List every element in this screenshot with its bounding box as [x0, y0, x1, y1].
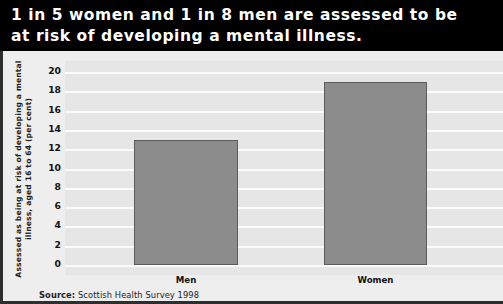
bar-men — [134, 140, 238, 265]
source-prefix: Source: — [39, 290, 75, 300]
y-tick-0: 0 — [39, 258, 61, 269]
gridline-16 — [65, 111, 503, 113]
y-tick-6: 6 — [39, 200, 61, 211]
gridline-10 — [65, 169, 503, 171]
source-text: Scottish Health Survey 1998 — [75, 290, 199, 300]
y-tick-2: 2 — [39, 238, 61, 249]
y-tick-12: 12 — [39, 142, 61, 153]
y-tick-8: 8 — [39, 180, 61, 191]
page-title: 1 in 5 women and 1 in 8 men are assessed… — [11, 5, 481, 47]
y-tick-14: 14 — [39, 122, 61, 133]
gridline-4 — [65, 226, 503, 228]
y-axis-label: Assessed as being at risk of developing … — [9, 56, 39, 282]
y-axis-ticks: 20181614121086420 — [39, 68, 61, 275]
gridline-2 — [65, 246, 503, 248]
plot-inner — [65, 72, 503, 265]
title-banner: 1 in 5 women and 1 in 8 men are assessed… — [0, 0, 503, 51]
y-tick-16: 16 — [39, 103, 61, 114]
y-tick-4: 4 — [39, 219, 61, 230]
y-tick-20: 20 — [39, 65, 61, 76]
chart-panel: Assessed as being at risk of developing … — [0, 51, 503, 304]
y-tick-10: 10 — [39, 161, 61, 172]
plot-area — [65, 61, 503, 275]
source-note: Source: Scottish Health Survey 1998 — [39, 290, 199, 300]
gridline-0 — [65, 265, 503, 267]
gridline-20 — [65, 72, 503, 74]
gridline-8 — [65, 188, 503, 190]
x-axis-labels: MenWomen — [65, 275, 503, 291]
y-axis-label-container: Assessed as being at risk of developing … — [9, 56, 39, 281]
gridline-14 — [65, 130, 503, 132]
gridline-18 — [65, 91, 503, 93]
x-label-women: Women — [358, 275, 394, 285]
y-tick-18: 18 — [39, 84, 61, 95]
gridline-12 — [65, 149, 503, 151]
figure-root: 1 in 5 women and 1 in 8 men are assessed… — [0, 0, 503, 304]
x-label-men: Men — [176, 275, 197, 285]
gridline-6 — [65, 207, 503, 209]
bar-women — [324, 82, 427, 265]
